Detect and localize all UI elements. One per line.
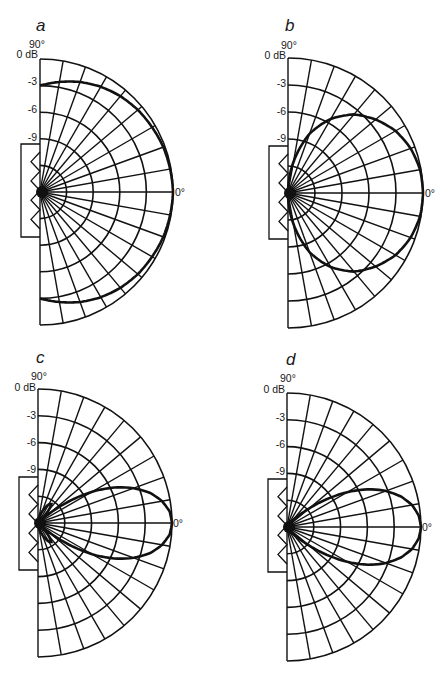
polar-grid <box>283 393 421 661</box>
tick-minus9: -9 <box>28 131 37 143</box>
tick-0db: 0 dB <box>263 383 285 395</box>
polar-grid <box>36 59 173 325</box>
beam-pattern-figure: a 90° 0 dB -3 -6 -9 0° b 90° 0 dB -3 -6 … <box>0 0 447 677</box>
tick-minus3: -3 <box>277 77 286 89</box>
panel-b: b 90° 0 dB -3 -6 -9 0° <box>264 16 435 328</box>
angle-label-0: 0° <box>173 517 183 529</box>
panel-label-a: a <box>36 16 45 35</box>
tick-minus9: -9 <box>27 463 36 475</box>
tick-minus9: -9 <box>277 132 286 144</box>
panel-label-d: d <box>286 350 296 369</box>
panel-c: c 90° 0 dB -3 -6 -9 0° <box>14 348 183 657</box>
polar-grid <box>284 58 423 328</box>
tick-0db: 0 dB <box>14 381 36 393</box>
tick-minus6: -6 <box>27 436 36 448</box>
tick-minus6: -6 <box>276 438 285 450</box>
panel-d: d 90° 0 dB -3 -6 -9 0° <box>263 350 432 661</box>
panel-label-b: b <box>285 16 294 35</box>
tick-minus6: -6 <box>277 105 286 117</box>
tick-minus9: -9 <box>276 465 285 477</box>
tick-minus3: -3 <box>28 75 37 87</box>
tick-minus3: -3 <box>276 411 285 423</box>
tick-0db: 0 dB <box>16 48 38 60</box>
center-hub <box>284 187 296 199</box>
tick-minus3: -3 <box>27 409 36 421</box>
angle-label-0: 0° <box>175 186 185 198</box>
polar-grid <box>34 389 172 657</box>
angle-label-0: 0° <box>422 521 432 533</box>
panel-label-c: c <box>36 348 45 367</box>
tick-0db: 0 dB <box>264 49 286 61</box>
angle-label-0: 0° <box>425 187 435 199</box>
tick-minus6: -6 <box>28 103 37 115</box>
panel-a: a 90° 0 dB -3 -6 -9 0° <box>16 16 185 325</box>
